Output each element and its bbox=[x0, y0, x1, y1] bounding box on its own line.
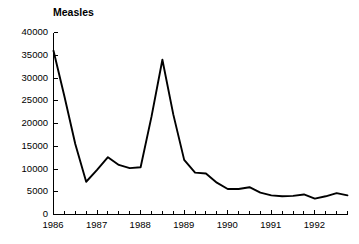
x-axis-tick-label: 1989 bbox=[173, 219, 194, 230]
measles-line-chart: Measles 05000100001500020000250003000035… bbox=[0, 0, 359, 244]
x-axis-tick-label: 1987 bbox=[86, 219, 107, 230]
y-axis-tick-label: 30000 bbox=[22, 72, 48, 83]
chart-canvas: Measles 05000100001500020000250003000035… bbox=[0, 0, 359, 244]
y-axis-tick-label: 15000 bbox=[22, 140, 48, 151]
y-axis-tick-label: 35000 bbox=[22, 49, 48, 60]
x-axis-tick-label: 1991 bbox=[260, 219, 281, 230]
chart-title: Measles bbox=[53, 6, 94, 18]
y-axis-tick-label: 20000 bbox=[22, 117, 48, 128]
y-axis-tick-label: 40000 bbox=[22, 26, 48, 37]
y-axis-tick-label: 25000 bbox=[22, 94, 48, 105]
x-axis-tick-label: 1992 bbox=[304, 219, 325, 230]
y-axis-tick-label: 5000 bbox=[27, 185, 48, 196]
x-axis-tick-label: 1988 bbox=[130, 219, 151, 230]
x-axis-tick-label: 1990 bbox=[217, 219, 238, 230]
y-axis-tick-label: 10000 bbox=[22, 163, 48, 174]
x-axis-tick-label: 1986 bbox=[43, 219, 64, 230]
y-axis-tick-label: 0 bbox=[43, 208, 48, 219]
